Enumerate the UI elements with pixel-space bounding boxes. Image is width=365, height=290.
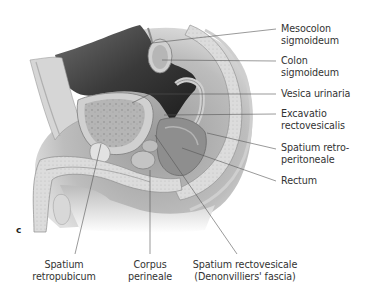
label-line: perineale — [128, 271, 172, 283]
label-line: (Denonvilliers' fascia) — [193, 271, 297, 283]
label-spatium-retroperitoneale: Spatium retro- peritoneale — [281, 142, 349, 165]
label-line: sigmoideum — [281, 35, 339, 47]
label-line: rectovesicalis — [281, 120, 345, 132]
label-line: sigmoideum — [281, 67, 339, 79]
label-mesocolon-sigmoideum: Mesocolon sigmoideum — [281, 23, 339, 46]
label-line: Colon — [281, 55, 339, 67]
label-line: Spatium rectovesicale — [193, 259, 297, 271]
label-line: Corpus — [128, 259, 172, 271]
label-line: Spatium retro- — [281, 142, 349, 154]
anatomy-figure: Mesocolon sigmoideum Colon sigmoideum Ve… — [0, 0, 365, 290]
label-line: Rectum — [281, 175, 317, 187]
seminal-vesicle — [142, 140, 158, 152]
label-colon-sigmoideum: Colon sigmoideum — [281, 55, 339, 78]
label-line: Spatium — [32, 259, 95, 271]
label-line: retropubicum — [32, 271, 95, 283]
panel-letter: c — [16, 225, 21, 235]
label-rectum: Rectum — [281, 175, 317, 187]
label-corpus-perineale: Corpus perineale — [128, 259, 172, 282]
label-line: Vesica urinaria — [281, 88, 350, 100]
label-spatium-retropubicum: Spatium retropubicum — [32, 259, 95, 282]
label-line: Excavatio — [281, 108, 345, 120]
prostate — [131, 151, 155, 169]
label-spatium-rectovesicale: Spatium rectovesicale (Denonvilliers' fa… — [193, 259, 297, 282]
testis — [53, 194, 70, 224]
label-vesica-urinaria: Vesica urinaria — [281, 88, 350, 100]
label-line: Mesocolon — [281, 23, 339, 35]
label-excavatio-rectovesicalis: Excavatio rectovesicalis — [281, 108, 345, 131]
label-line: peritoneale — [281, 154, 349, 166]
